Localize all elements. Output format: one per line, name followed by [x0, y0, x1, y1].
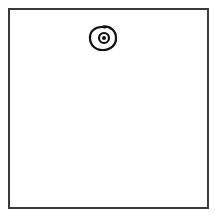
pupil-dot	[102, 36, 106, 40]
eye-icon	[90, 26, 116, 50]
sketch-layer	[0, 0, 215, 215]
